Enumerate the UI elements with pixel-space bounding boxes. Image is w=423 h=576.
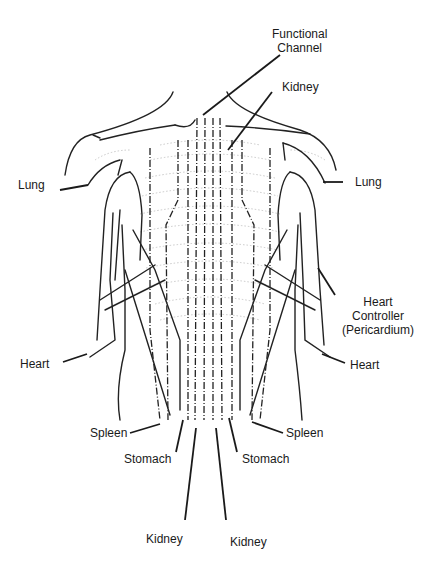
label-stomach-left: Stomach: [124, 452, 171, 466]
pointer-spleen-right: [252, 422, 283, 433]
label-heart-left: Heart: [20, 357, 49, 371]
pointer-lines: [60, 55, 345, 520]
pointer-kidney-bottom-right: [216, 428, 226, 520]
meridian-diagram: Functional Channel Kidney Lung Lung Hear…: [0, 0, 423, 576]
label-heart-right: Heart: [350, 358, 379, 372]
pointer-kidney-top: [228, 92, 272, 150]
label-line: (Pericardium): [342, 323, 414, 337]
label-heart-controller: Heart Controller (Pericardium): [342, 295, 414, 337]
pointer-heart-left: [63, 354, 87, 362]
label-kidney-top: Kidney: [282, 80, 319, 94]
label-kidney-bottom-left: Kidney: [146, 532, 183, 546]
label-lung-left: Lung: [18, 178, 45, 192]
label-stomach-right: Stomach: [242, 452, 289, 466]
label-functional-channel: Functional Channel: [272, 27, 327, 55]
pointer-stomach-right: [229, 418, 237, 452]
pointer-heart-right: [322, 354, 345, 363]
pointer-kidney-bottom-left: [185, 428, 196, 520]
body-outline-and-channels: [0, 0, 423, 576]
label-line: Channel: [272, 41, 327, 55]
label-line: Heart: [342, 295, 414, 309]
spinal-channels: [150, 118, 270, 420]
label-line: Controller: [342, 309, 414, 323]
pointer-stomach-left: [176, 420, 183, 452]
pointer-functional-channel: [203, 55, 280, 115]
rib-cage: [95, 140, 325, 320]
label-spleen-right: Spleen: [286, 426, 323, 440]
pointer-lung-left: [60, 185, 88, 190]
pointer-spleen-left: [130, 424, 160, 433]
label-line: Functional: [272, 27, 327, 41]
label-kidney-bottom-right: Kidney: [230, 535, 267, 549]
shoulder-outline: [65, 92, 336, 175]
lung-channels: [88, 143, 325, 185]
label-spleen-left: Spleen: [90, 426, 127, 440]
label-lung-right: Lung: [355, 175, 382, 189]
